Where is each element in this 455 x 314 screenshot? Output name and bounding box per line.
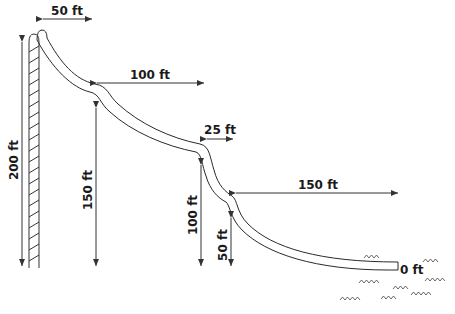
ladder-icon <box>29 34 39 268</box>
label-50ft-horizontal: 50 ft <box>51 4 83 18</box>
dimension-50ft-vertical: 50 ft <box>216 218 231 266</box>
label-200ft-vertical: 200 ft <box>7 140 21 180</box>
label-150ft-horizontal: 150 ft <box>298 178 338 192</box>
label-0ft: 0 ft <box>400 263 424 277</box>
label-150ft-vertical: 150 ft <box>81 170 95 210</box>
dimension-100ft-vertical: 100 ft <box>186 165 201 266</box>
label-100ft-horizontal: 100 ft <box>130 68 170 82</box>
dimension-150ft-horizontal: 150 ft <box>236 178 398 193</box>
water-slide-diagram: 50 ft 100 ft 25 ft 150 ft 200 ft 150 ft … <box>0 0 455 314</box>
dimension-25ft-horizontal: 25 ft <box>204 123 236 139</box>
dimension-50ft-horizontal: 50 ft <box>43 4 92 19</box>
dimension-100ft-horizontal: 100 ft <box>97 68 204 83</box>
label-100ft-vertical: 100 ft <box>186 195 200 235</box>
dimension-200ft-vertical: 200 ft <box>7 42 22 266</box>
label-50ft-vertical: 50 ft <box>216 229 230 261</box>
label-25ft-horizontal: 25 ft <box>204 123 236 137</box>
dimension-150ft-vertical: 150 ft <box>81 108 96 266</box>
